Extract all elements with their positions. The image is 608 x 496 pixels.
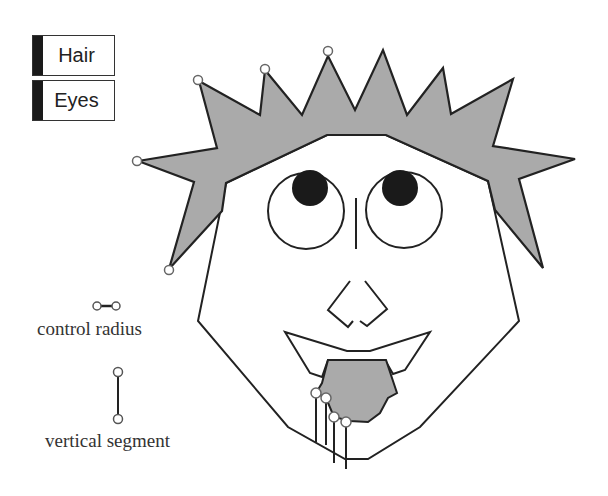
control-point-handle[interactable] <box>321 393 331 403</box>
control-point-handle[interactable] <box>329 412 339 422</box>
control-point-handle[interactable] <box>165 266 174 275</box>
face-drawing-canvas[interactable] <box>0 0 608 496</box>
right-eye[interactable] <box>366 170 442 248</box>
control-point-handle[interactable] <box>194 76 203 85</box>
control-point-handle[interactable] <box>341 417 351 427</box>
vertical-segment-icon <box>114 368 123 424</box>
control-point-handle[interactable] <box>311 388 321 398</box>
control-radius-label: control radius <box>37 318 142 340</box>
vertical-segment-label: vertical segment <box>45 430 170 452</box>
control-point-handle[interactable] <box>261 65 270 74</box>
right-pupil <box>382 170 418 206</box>
control-point-handle[interactable] <box>324 47 333 56</box>
left-pupil <box>292 170 328 206</box>
control-point-handle[interactable] <box>133 157 142 166</box>
control-radius-icon <box>93 302 120 310</box>
